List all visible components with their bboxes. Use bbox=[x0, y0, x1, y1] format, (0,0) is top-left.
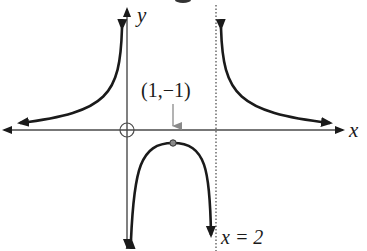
asymptote-label: x = 2 bbox=[220, 226, 263, 248]
local-max-point bbox=[170, 140, 176, 146]
curve-middle-branch bbox=[131, 143, 211, 240]
rational-function-graph: y x (1,−1) x = 2 bbox=[0, 0, 367, 251]
y-axis-label: y bbox=[135, 3, 147, 27]
curve-right-branch bbox=[221, 28, 330, 123]
top-edge-mark bbox=[175, 0, 191, 3]
point-label: (1,−1) bbox=[141, 79, 191, 102]
curve-left-branch bbox=[20, 28, 122, 123]
x-axis-label: x bbox=[348, 118, 359, 142]
